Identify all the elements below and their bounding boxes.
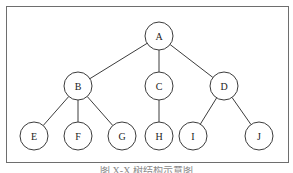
figure-caption: 图 X-X 树结构示意图: [0, 166, 293, 173]
tree-diagram: ABCDEFGHIJ: [0, 0, 293, 173]
tree-node-f: F: [64, 122, 92, 150]
node-label: F: [75, 131, 81, 142]
tree-node-e: E: [20, 122, 48, 150]
node-label: H: [155, 131, 162, 142]
node-label: B: [75, 81, 82, 92]
edge-a-b: [90, 43, 147, 78]
tree-nodes: ABCDEFGHIJ: [20, 22, 273, 150]
node-label: E: [31, 131, 37, 142]
node-label: D: [220, 81, 227, 92]
node-label: A: [155, 31, 163, 42]
tree-node-h: H: [145, 122, 173, 150]
tree-node-g: G: [108, 122, 136, 150]
edge-d-i: [200, 98, 216, 124]
edge-a-d: [170, 45, 213, 78]
node-label: G: [118, 131, 125, 142]
tree-node-b: B: [64, 72, 92, 100]
tree-node-j: J: [245, 122, 273, 150]
edge-b-g: [87, 97, 113, 126]
edge-b-e: [43, 97, 69, 126]
edge-d-j: [232, 97, 251, 124]
tree-node-a: A: [145, 22, 173, 50]
node-label: J: [257, 131, 261, 142]
tree-node-c: C: [145, 72, 173, 100]
tree-node-d: D: [210, 72, 238, 100]
node-label: I: [191, 131, 194, 142]
tree-node-i: I: [179, 122, 207, 150]
node-label: C: [156, 81, 163, 92]
